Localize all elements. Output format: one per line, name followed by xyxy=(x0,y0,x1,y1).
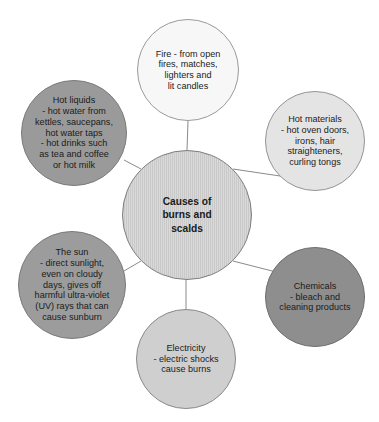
node-fire-label: Fire - from open fires, matches, lighter… xyxy=(152,49,225,92)
node-the-sun-label: The sun - direct sunlight, even on cloud… xyxy=(31,247,114,322)
connector-center-to-hot-materials xyxy=(233,169,280,176)
node-chemicals: Chemicals - bleach and cleaning products xyxy=(265,247,365,347)
connector-center-to-hot-liquids xyxy=(124,160,141,169)
node-hot-materials: Hot materials - hot oven doors, irons, h… xyxy=(265,91,365,191)
node-electricity: Electricity - electric shocks cause burn… xyxy=(136,309,236,409)
connector-center-to-fire xyxy=(187,121,188,150)
node-fire: Fire - from open fires, matches, lighter… xyxy=(137,19,239,121)
center-node-label: Causes of burns and scalds xyxy=(158,195,215,235)
burns-and-scalds-diagram: Causes of burns and scalds Fire - from o… xyxy=(0,0,379,422)
node-hot-liquids: Hot liquids - hot water from kettles, sa… xyxy=(21,80,127,186)
node-hot-liquids-label: Hot liquids - hot water from kettles, sa… xyxy=(31,95,117,170)
node-chemicals-label: Chemicals - bleach and cleaning products xyxy=(275,281,354,313)
node-electricity-label: Electricity - electric shocks cause burn… xyxy=(149,343,222,375)
connector-center-to-the-sun xyxy=(124,261,141,271)
center-node-causes-of-burns-and-scalds: Causes of burns and scalds xyxy=(122,150,252,280)
node-hot-materials-label: Hot materials - hot oven doors, irons, h… xyxy=(277,114,353,168)
node-the-sun: The sun - direct sunlight, even on cloud… xyxy=(18,231,126,339)
